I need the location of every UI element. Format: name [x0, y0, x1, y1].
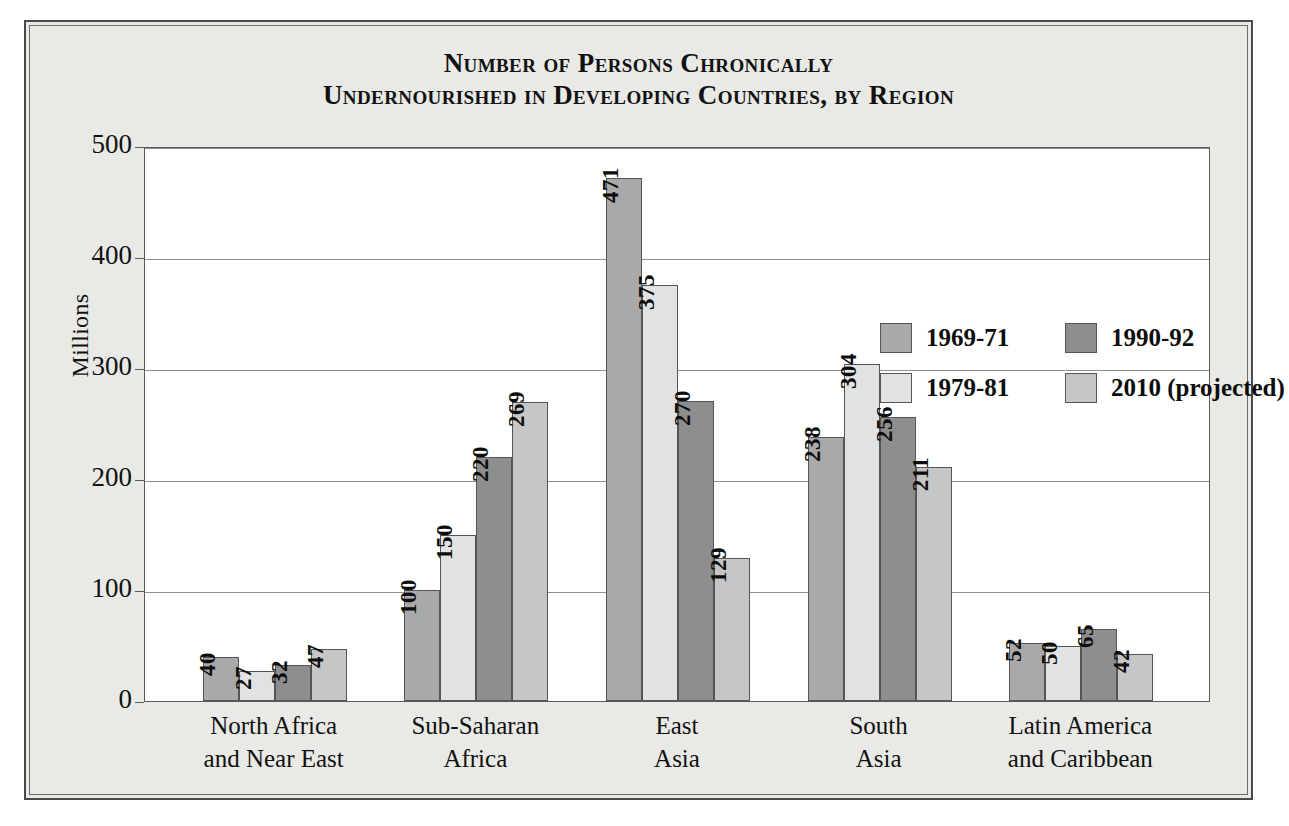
bar-value-label: 65	[1073, 624, 1099, 648]
y-axis-tick-mark	[135, 147, 144, 148]
y-axis-tick-label: 0	[119, 684, 133, 715]
chart-title-line-2: Undernourished in Developing Countries, …	[26, 80, 1251, 112]
y-axis-tick-mark	[135, 258, 144, 259]
legend-label: 1969-71	[926, 324, 1009, 352]
bar-value-label: 42	[1109, 649, 1135, 673]
bar[interactable]: 471	[606, 178, 642, 701]
x-axis-category-label-line: and Caribbean	[948, 743, 1212, 776]
bar-value-label: 150	[432, 524, 458, 560]
bar-value-label: 375	[634, 274, 660, 310]
bar-value-label: 129	[706, 547, 732, 583]
bar-value-label: 50	[1037, 641, 1063, 665]
bar[interactable]: 150	[440, 535, 476, 702]
y-axis-tick-label: 200	[92, 462, 133, 493]
legend-item[interactable]: 1969-71	[880, 323, 1065, 353]
bar[interactable]: 100	[404, 590, 440, 701]
y-axis-tick-label: 300	[92, 351, 133, 382]
bar[interactable]: 211	[916, 467, 952, 701]
bar-value-label: 238	[800, 426, 826, 462]
bar-value-label: 52	[1001, 638, 1027, 662]
bar[interactable]: 375	[642, 285, 678, 701]
bar-group: 40273247	[203, 148, 347, 701]
bar[interactable]: 47	[311, 649, 347, 701]
legend-swatch	[1065, 373, 1097, 403]
bar[interactable]: 42	[1117, 654, 1153, 701]
bar[interactable]: 129	[714, 558, 750, 701]
bar[interactable]: 220	[476, 457, 512, 701]
bar[interactable]: 32	[275, 665, 311, 701]
bar[interactable]: 269	[512, 402, 548, 701]
legend-swatch	[880, 373, 912, 403]
y-axis-tick-label: 500	[92, 129, 133, 160]
legend-label: 1979-81	[926, 374, 1009, 402]
legend-row: 1969-711990-92	[880, 323, 1289, 353]
bar[interactable]: 50	[1045, 646, 1081, 702]
bar-group: 238304256211	[808, 148, 952, 701]
bar-value-label: 471	[598, 167, 624, 203]
bar-value-label: 270	[670, 390, 696, 426]
y-axis-tick-label: 100	[92, 573, 133, 604]
bar-value-label: 304	[836, 353, 862, 389]
chart-legend: 1969-711990-921979-812010 (projected)	[880, 323, 1289, 423]
y-axis-tick-mark	[135, 480, 144, 481]
legend-swatch	[880, 323, 912, 353]
y-axis-tick-mark	[135, 591, 144, 592]
plot-area: 4027324710015022026947137527012923830425…	[144, 147, 1210, 702]
x-axis-category-label-line: Latin America	[948, 710, 1212, 743]
chart-title-line-1: Number of Persons Chronically	[26, 48, 1251, 80]
bar-value-label: 32	[267, 660, 293, 684]
bar-value-label: 269	[504, 391, 530, 427]
y-axis-tick-mark	[135, 702, 144, 703]
chart-title: Number of Persons Chronically Undernouri…	[26, 48, 1251, 112]
bar-value-label: 40	[195, 652, 221, 676]
legend-item[interactable]: 1990-92	[1065, 323, 1194, 353]
bar-group: 471375270129	[606, 148, 750, 701]
x-axis-category-labels: North Africaand Near EastSub-SaharanAfri…	[144, 710, 1210, 790]
bar-value-label: 47	[303, 644, 329, 668]
bar[interactable]: 238	[808, 437, 844, 701]
legend-label: 1990-92	[1111, 324, 1194, 352]
figure-frame: Number of Persons Chronically Undernouri…	[24, 20, 1253, 800]
y-axis-tick-labels: 0100200300400500	[46, 147, 132, 702]
bar-value-label: 211	[908, 456, 934, 491]
legend-item[interactable]: 1979-81	[880, 373, 1065, 403]
legend-label: 2010 (projected)	[1111, 374, 1285, 402]
bar-group: 100150220269	[404, 148, 548, 701]
bar-value-label: 100	[396, 579, 422, 615]
y-axis-tick-mark	[135, 369, 144, 370]
x-axis-category-label: Latin Americaand Caribbean	[948, 710, 1212, 775]
legend-item[interactable]: 2010 (projected)	[1065, 373, 1285, 403]
legend-swatch	[1065, 323, 1097, 353]
y-axis-tick-label: 400	[92, 240, 133, 271]
bar-group: 52506542	[1009, 148, 1153, 701]
bar-value-label: 220	[468, 446, 494, 482]
legend-row: 1979-812010 (projected)	[880, 373, 1289, 403]
bar-value-label: 27	[231, 666, 257, 690]
